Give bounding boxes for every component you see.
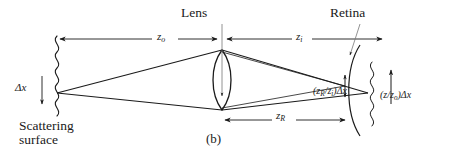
outer-spot-size-label: (z/zo)Δx [380,90,411,103]
zr-subscript: R [280,114,285,123]
zo-subscript: o [161,35,165,44]
scattering-line-1: Scattering [19,118,74,133]
retina-spot-end: )Δx [333,85,347,96]
retina-label: Retina [330,6,365,20]
image-distance-label: zi [296,31,302,45]
rayleigh-range-label: zR [276,110,285,124]
outer-spot-open: (z/z [380,89,394,100]
ray-lower-object [57,93,222,110]
scattering-line-2: surface [19,132,58,147]
retina-leader-line [350,24,360,55]
delta-x-label: Δx [15,82,26,94]
lens-label: Lens [181,6,207,20]
figure-caption: (b) [206,132,221,146]
object-distance-label: zo [157,31,165,45]
ray-upper-object [57,50,222,93]
outer-spot-end: )Δx [398,89,412,100]
retina-spot-size-label: (zR/zi)Δx [313,86,347,99]
outer-wavy-surface [370,62,373,126]
ray-marginal-upper [222,52,345,86]
scattering-surface-label: Scatteringsurface [19,119,74,147]
zi-subscript: i [300,35,302,44]
scattering-surface [55,36,58,116]
